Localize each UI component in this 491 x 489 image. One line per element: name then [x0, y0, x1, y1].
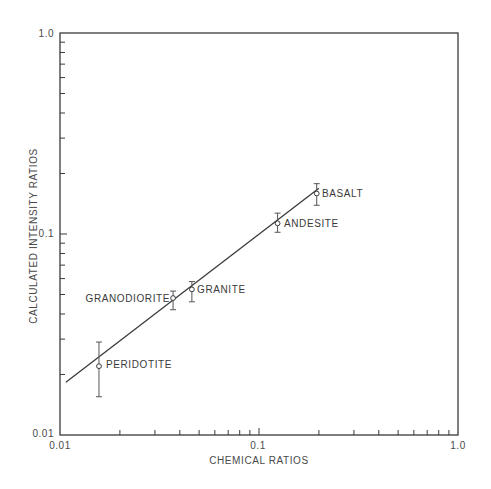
data-point-peridotite: [96, 342, 102, 397]
label-basalt: BASALT: [322, 188, 363, 199]
data-point-granodiorite: [170, 291, 176, 310]
y-tick-label-0.1: 0.1: [39, 228, 54, 239]
x-axis-ticks: [120, 428, 449, 435]
y-tick-label-0.01: 0.01: [33, 428, 54, 439]
y-axis-title: CALCULATED INTENSITY RATIOS: [28, 148, 39, 324]
x-tick-label-1: 1.0: [450, 440, 465, 451]
y-tick-label-1: 1.0: [39, 28, 54, 39]
x-tick-label-0.01: 0.01: [49, 440, 70, 451]
data-point-basalt: [314, 184, 320, 206]
log-log-chart: 1.0 0.1 0.01 0.01 0.1 1.0 CHEMICAL RATIO…: [0, 0, 491, 489]
y-axis-ticks: [60, 42, 67, 374]
label-granite: GRANITE: [197, 284, 246, 295]
label-peridotite: PERIDOTITE: [106, 359, 172, 370]
label-granodiorite: GRANODIORITE: [86, 293, 170, 304]
label-andesite: ANDESITE: [284, 218, 339, 229]
x-tick-label-0.1: 0.1: [250, 440, 265, 451]
data-point-andesite: [275, 213, 281, 232]
x-axis-title: CHEMICAL RATIOS: [209, 455, 309, 466]
